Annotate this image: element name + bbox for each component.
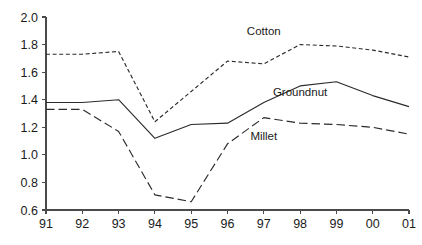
y-axis-tick-label: 1.0: [21, 148, 38, 162]
y-axis-tick-label: 0.8: [21, 176, 38, 190]
x-axis-tick-label: 97: [257, 217, 271, 231]
y-axis-tick-label: 1.4: [21, 93, 38, 107]
x-axis: 9192939495969798990001: [39, 210, 416, 231]
x-axis-tick-label: 98: [293, 217, 307, 231]
y-axis-tick-label: 1.6: [21, 66, 38, 80]
y-axis: 2.01.81.61.41.21.00.80.6: [21, 11, 46, 218]
series-label-cotton: Cotton: [247, 25, 281, 37]
x-axis-tick-label: 92: [75, 217, 89, 231]
x-axis-tick-label: 01: [402, 217, 416, 231]
series-line-cotton: [46, 45, 409, 122]
x-axis-tick-label: 91: [39, 217, 53, 231]
series-label-groundnut: Groundnut: [273, 86, 328, 98]
x-axis-tick-label: 99: [329, 217, 343, 231]
line-chart: 2.01.81.61.41.21.00.80.6 919293949596979…: [0, 0, 422, 245]
x-axis-tick-label: 93: [112, 217, 126, 231]
x-axis-tick-label: 96: [221, 217, 235, 231]
x-axis-tick-label: 94: [148, 217, 162, 231]
series-lines: [46, 45, 409, 202]
y-axis-tick-label: 1.2: [21, 121, 38, 135]
y-axis-tick-label: 1.8: [21, 38, 38, 52]
x-axis-tick-label: 95: [184, 217, 198, 231]
y-axis-tick-label: 0.6: [21, 204, 38, 218]
series-label-millet: Millet: [250, 130, 278, 142]
series-line-groundnut: [46, 82, 409, 139]
x-axis-tick-label: 00: [366, 217, 380, 231]
chart-plot-area: 2.01.81.61.41.21.00.80.6 919293949596979…: [0, 0, 422, 245]
y-axis-tick-label: 2.0: [21, 11, 38, 25]
